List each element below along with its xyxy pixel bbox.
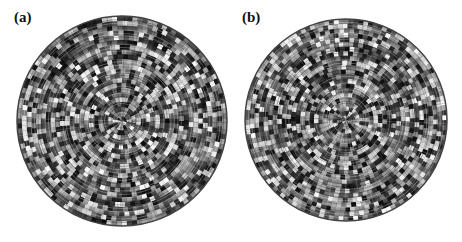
- speckle-disc-a: [17, 16, 227, 226]
- speckle-pattern-canvas: [0, 0, 462, 242]
- speckle-disc-b: [245, 19, 447, 221]
